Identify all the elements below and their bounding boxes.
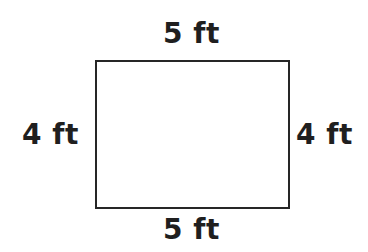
figure-canvas: 5 ft 4 ft 4 ft 5 ft	[0, 0, 368, 252]
dimension-label-bottom: 5 ft	[0, 216, 368, 244]
dimension-label-right: 4 ft	[296, 121, 353, 149]
dimension-label-top: 5 ft	[0, 20, 368, 48]
rectangle-shape	[95, 60, 290, 209]
dimension-label-left: 4 ft	[22, 121, 79, 149]
